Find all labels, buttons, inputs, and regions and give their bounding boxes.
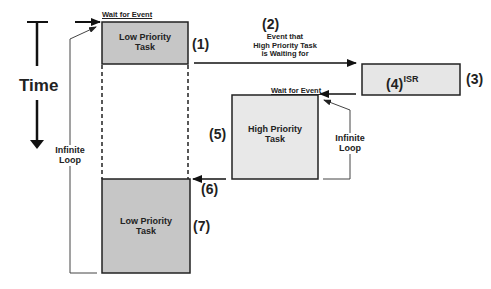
left-infinite-loop-label: Infinite Loop (50, 145, 90, 166)
isr-label: ISR (362, 74, 460, 84)
diagram-canvas: Time Wait for Event Low Priority Task (1… (0, 0, 491, 289)
right-loop-line-2: Loop (330, 143, 370, 153)
step-4: (4) (386, 76, 403, 92)
low-task-1-text: Low Priority Task (115, 32, 175, 53)
left-loop-line-2: Loop (50, 155, 90, 165)
low-priority-task-label-1: Low Priority Task (102, 32, 188, 53)
time-label: Time (19, 74, 58, 98)
step-2: (2) (262, 16, 279, 32)
step-3: (3) (466, 71, 483, 87)
step-7: (7) (193, 218, 210, 234)
event-description: Event that High Priority Task is Waiting… (230, 33, 340, 59)
step-5: (5) (209, 126, 226, 142)
right-loop-line-1: Infinite (330, 133, 370, 143)
step-6: (6) (201, 181, 218, 197)
event-line-3: is Waiting for (230, 50, 340, 59)
wait-for-event-label-1: Wait for Event (102, 11, 152, 20)
high-task-text: High Priority Task (240, 124, 310, 145)
step-1: (1) (192, 36, 209, 52)
right-infinite-loop-label: Infinite Loop (330, 133, 370, 154)
low-task-2-text: Low Priority Task (116, 216, 176, 237)
wait-for-event-label-2: Wait for Event (271, 87, 321, 96)
left-loop-line-1: Infinite (50, 145, 90, 155)
high-priority-task-label: High Priority Task (232, 124, 318, 145)
low-priority-task-label-2: Low Priority Task (102, 216, 190, 237)
